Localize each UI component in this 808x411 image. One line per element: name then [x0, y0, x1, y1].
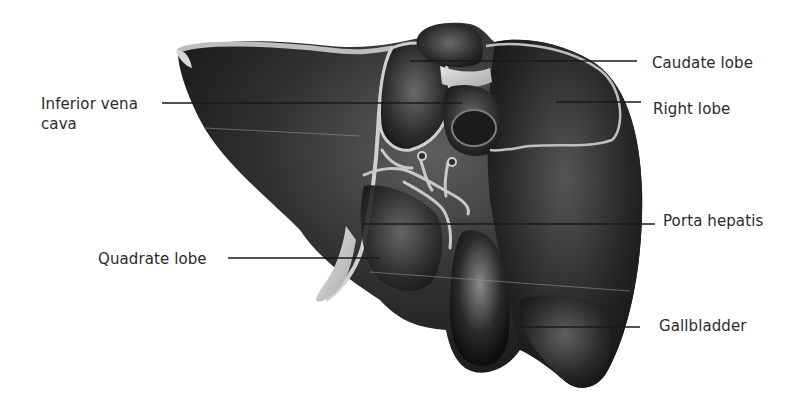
- liver-diagram: Inferior vena cava Quadrate lobe Caudate…: [0, 0, 808, 411]
- right-lobe-lower: [520, 295, 610, 385]
- label-porta-hepatis: Porta hepatis: [663, 211, 763, 231]
- label-gallbladder: Gallbladder: [659, 316, 747, 336]
- label-right-lobe: Right lobe: [653, 99, 730, 119]
- label-caudate-lobe: Caudate lobe: [652, 53, 753, 73]
- label-inferior-vena-cava: Inferior vena cava: [41, 94, 138, 134]
- inferior-vena-cava-shape: [443, 85, 502, 156]
- label-quadrate-lobe: Quadrate lobe: [98, 249, 207, 269]
